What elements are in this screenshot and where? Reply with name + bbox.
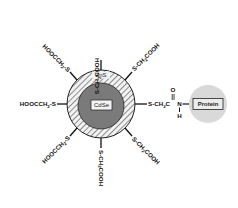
- svg-text:HOOCCH2-S: HOOCCH2-S: [20, 100, 56, 109]
- amide-linker: S-CH2C O N H: [148, 86, 189, 119]
- svg-text:S-CH2COOH: S-CH2COOH: [130, 135, 162, 167]
- amide-hydrogen: H: [177, 112, 182, 119]
- carbonyl-oxygen: O: [171, 86, 176, 93]
- svg-text:S-CH2COOH: S-CH2COOH: [130, 41, 162, 73]
- protein-label: Protein: [198, 101, 219, 107]
- ligand-bottom-left: HOOCCH2-S: [41, 134, 73, 166]
- ligand-bottom-right: S-CH2COOH: [130, 135, 162, 167]
- ligand-top-right: S-CH2COOH: [130, 41, 162, 73]
- ligand-left: HOOCCH2-S: [20, 100, 56, 109]
- amide-nitrogen: N: [177, 100, 182, 107]
- quantum-dot-diagram: Protein ZnS CdSe S-CH2COOH S-CH2COOH HOO…: [0, 0, 238, 208]
- svg-text:HOOCCH2-S: HOOCCH2-S: [40, 43, 72, 75]
- svg-text:S-CH2COOH: S-CH2COOH: [97, 150, 106, 187]
- svg-text:HOOCCH2-S: HOOCCH2-S: [41, 134, 73, 166]
- ligand-bottom: S-CH2COOH: [97, 150, 106, 187]
- cdse-label: CdSe: [94, 102, 110, 108]
- ligand-top-left: HOOCCH2-S: [40, 43, 72, 75]
- svg-text:S-CH2C: S-CH2C: [148, 100, 171, 109]
